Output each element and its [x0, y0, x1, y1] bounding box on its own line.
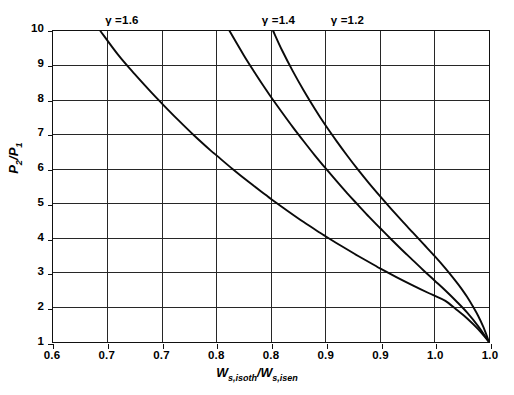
- y-tick-mark: [48, 31, 53, 32]
- x-tick-label: 0.7: [77, 349, 137, 361]
- y-axis-title-slash-p: /P: [6, 148, 21, 160]
- y-tick-mark: [48, 309, 53, 310]
- y-tick-mark: [48, 344, 53, 345]
- y-tick-label: 3: [6, 265, 44, 277]
- x-tick-label: 0.7: [132, 349, 192, 361]
- y-tick-label: 1: [6, 335, 44, 347]
- x-axis-title-sub-isen: s,isen: [272, 373, 298, 383]
- data-curve: [100, 31, 489, 342]
- x-tick-label: 0.8: [186, 349, 246, 361]
- x-axis-title-w-isen: W: [260, 366, 272, 380]
- y-tick-label: 5: [6, 196, 44, 208]
- gamma-annotation: γ =1.2: [317, 14, 377, 26]
- y-tick-label: 6: [6, 161, 44, 173]
- y-tick-mark: [48, 66, 53, 67]
- x-tick-label: 0.9: [351, 349, 411, 361]
- y-tick-mark: [48, 170, 53, 171]
- gamma-annotation: γ =1.4: [248, 14, 308, 26]
- y-tick-mark: [48, 274, 53, 275]
- data-curve: [273, 31, 489, 342]
- y-tick-mark: [48, 240, 53, 241]
- y-tick-label: 2: [6, 300, 44, 312]
- y-tick-label: 10: [6, 22, 44, 34]
- x-tick-label: 1.0: [405, 349, 465, 361]
- y-tick-label: 4: [6, 231, 44, 243]
- plot-area: [52, 30, 490, 343]
- y-tick-label: 9: [6, 57, 44, 69]
- y-tick-mark: [48, 101, 53, 102]
- chart-figure: P2/P1 Ws,isoth/Ws,isen 0.60.70.70.80.80.…: [0, 0, 514, 395]
- x-tick-label: 0.6: [22, 349, 82, 361]
- y-tick-label: 7: [6, 126, 44, 138]
- y-tick-mark: [48, 205, 53, 206]
- data-curve: [230, 31, 489, 342]
- x-axis-title: Ws,isoth/Ws,isen: [0, 366, 514, 383]
- x-axis-title-sub-isoth: s,isoth: [228, 373, 257, 383]
- curves-layer: [53, 31, 489, 342]
- y-tick-mark: [48, 135, 53, 136]
- y-tick-label: 8: [6, 92, 44, 104]
- y-axis-title-sub-1: 1: [14, 142, 24, 147]
- x-axis-title-w-isoth: W: [216, 366, 228, 380]
- x-tick-label: 1.0: [460, 349, 514, 361]
- gamma-annotation: γ =1.6: [92, 14, 152, 26]
- x-tick-label: 0.8: [241, 349, 301, 361]
- x-tick-label: 0.9: [296, 349, 356, 361]
